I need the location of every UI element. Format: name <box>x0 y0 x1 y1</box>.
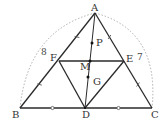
segment-ed <box>85 61 124 108</box>
arc-label-right: 7 <box>137 52 143 62</box>
label-d: D <box>82 109 90 120</box>
label-m: M <box>80 61 90 72</box>
label-a: A <box>90 2 99 13</box>
label-e: E <box>126 53 133 64</box>
point-p-dot <box>91 42 94 45</box>
equal-circle-bd <box>51 106 54 109</box>
label-c: C <box>151 109 159 120</box>
label-p: P <box>96 37 103 48</box>
point-g-dot <box>87 76 90 79</box>
triangle-diagram: A B C D E F M P G 8 7 <box>0 0 160 120</box>
label-b: B <box>12 109 19 120</box>
equal-circle-dc <box>117 106 120 109</box>
label-g: G <box>93 76 101 87</box>
label-f: F <box>50 52 57 63</box>
arc-label-left: 8 <box>41 47 47 57</box>
